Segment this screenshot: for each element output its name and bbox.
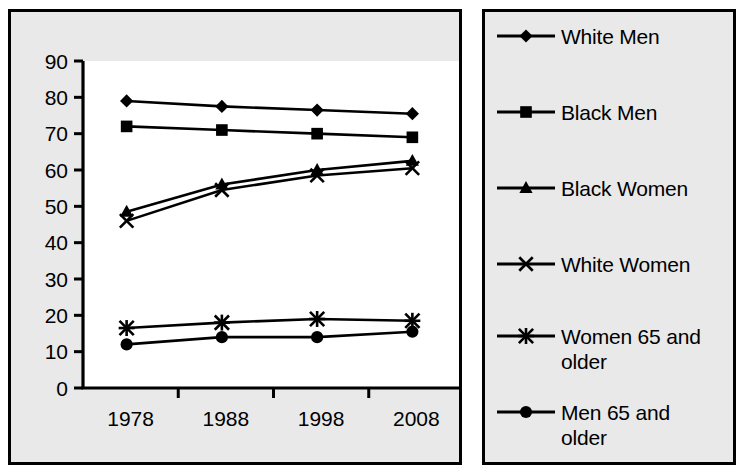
marker-asterisk [119, 320, 135, 336]
marker-circle [311, 331, 323, 343]
marker-asterisk [518, 328, 534, 344]
legend-item[interactable]: Women 65 and older [495, 324, 701, 374]
x-axis-tick-label: 1998 [298, 407, 345, 430]
marker-asterisk [309, 311, 325, 327]
line-chart-plot: 01020304050607080901978198819982008 [11, 12, 459, 462]
y-axis-tick-label: 60 [45, 159, 68, 182]
legend-item[interactable]: White Men [495, 24, 660, 49]
y-axis-tick-label: 90 [45, 50, 68, 73]
legend-list: White MenBlack MenBlack WomenWhite Women… [485, 12, 733, 462]
marker-diamond [519, 29, 532, 42]
marker-square [216, 124, 228, 136]
legend-marker-asterisk [495, 324, 557, 348]
marker-square [121, 121, 133, 133]
y-axis-tick-label: 30 [45, 268, 68, 291]
legend-item-label: White Men [561, 24, 660, 49]
legend-item[interactable]: Black Men [495, 100, 657, 125]
legend-item[interactable]: Men 65 and older [495, 400, 670, 450]
y-axis-tick-label: 80 [45, 86, 68, 109]
marker-asterisk [214, 315, 230, 331]
marker-circle [520, 406, 532, 418]
legend-item[interactable]: White Women [495, 252, 690, 277]
chart-screenshot: 01020304050607080901978198819982008 Whit… [0, 0, 744, 475]
legend-panel: White MenBlack MenBlack WomenWhite Women… [482, 9, 736, 465]
y-axis-tick-label: 20 [45, 304, 68, 327]
legend-item-label: Women 65 and older [561, 324, 701, 374]
y-axis-tick-label: 50 [45, 195, 68, 218]
legend-item-label: White Women [561, 252, 690, 277]
y-axis-tick-label: 0 [56, 377, 68, 400]
legend-item-label: Black Men [561, 100, 657, 125]
legend-marker-circle [495, 400, 557, 424]
marker-circle [406, 326, 418, 338]
y-axis-tick-label: 10 [45, 340, 68, 363]
y-axis-tick-label: 40 [45, 231, 68, 254]
marker-square [311, 128, 323, 140]
marker-square [407, 131, 419, 143]
marker-circle [216, 331, 228, 343]
marker-circle [121, 338, 133, 350]
legend-item[interactable]: Black Women [495, 176, 688, 201]
legend-item-label: Black Women [561, 176, 688, 201]
x-axis-tick-label: 2008 [393, 407, 440, 430]
x-axis-tick-label: 1978 [107, 407, 154, 430]
legend-marker-triangle [495, 176, 557, 200]
legend-marker-diamond [495, 24, 557, 48]
marker-square [520, 106, 532, 118]
chart-panel: 01020304050607080901978198819982008 [8, 9, 462, 465]
legend-marker-square [495, 100, 557, 124]
legend-marker-x [495, 252, 557, 276]
x-axis-tick-label: 1988 [203, 407, 250, 430]
y-axis-tick-label: 70 [45, 122, 68, 145]
legend-item-label: Men 65 and older [561, 400, 670, 450]
